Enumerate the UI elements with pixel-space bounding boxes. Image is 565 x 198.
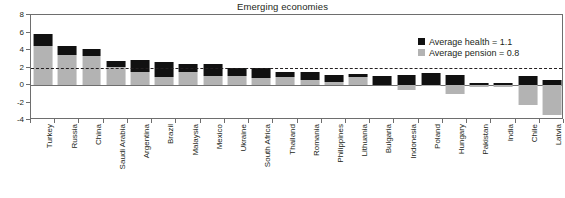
bar-slot[interactable] xyxy=(443,15,467,118)
y-axis-tick-label: 4 xyxy=(20,45,24,54)
bar-segment-health[interactable] xyxy=(155,62,174,77)
bar-slot[interactable] xyxy=(370,15,394,118)
bar-segment-health[interactable] xyxy=(446,75,465,86)
x-axis-tick-mark xyxy=(345,119,346,123)
legend-item-pension: Average pension = 0.8 xyxy=(418,47,519,58)
bar-slot[interactable] xyxy=(104,15,128,118)
x-axis-tick-mark xyxy=(103,119,104,123)
bar-segment-pension[interactable] xyxy=(421,85,440,86)
y-axis-tick-label: -2 xyxy=(17,97,24,106)
x-axis-tick-mark xyxy=(418,119,419,123)
bar-slot[interactable] xyxy=(467,15,491,118)
legend-swatch-pension-icon xyxy=(418,49,425,56)
x-axis-tick-mark xyxy=(563,119,564,123)
bar-slot[interactable] xyxy=(225,15,249,118)
x-axis-label: Indonesia xyxy=(409,124,418,159)
bar-slot[interactable] xyxy=(516,15,540,118)
bar-segment-health[interactable] xyxy=(542,80,561,85)
x-axis-label: Chile xyxy=(530,124,539,142)
bar-segment-pension[interactable] xyxy=(324,82,343,86)
x-axis-tick-mark xyxy=(539,119,540,123)
bar-segment-pension[interactable] xyxy=(227,76,246,85)
bar-slot[interactable] xyxy=(128,15,152,118)
bar-slot[interactable] xyxy=(31,15,55,118)
bar-segment-health[interactable] xyxy=(518,76,537,85)
bar-segment-pension[interactable] xyxy=(349,77,368,85)
legend: Average health = 1.1 Average pension = 0… xyxy=(415,35,522,60)
bar-segment-health[interactable] xyxy=(421,73,440,85)
bar-segment-health[interactable] xyxy=(397,75,416,85)
bar-segment-pension[interactable] xyxy=(276,77,295,85)
chart-container: Emerging economies -4-202468 Average hea… xyxy=(0,0,565,198)
bar-slot[interactable] xyxy=(346,15,370,118)
bar-segment-pension[interactable] xyxy=(131,72,150,85)
bar-segment-health[interactable] xyxy=(82,49,101,56)
bar-segment-pension[interactable] xyxy=(252,78,271,85)
bar-slot[interactable] xyxy=(298,15,322,118)
bar-slot[interactable] xyxy=(152,15,176,118)
bar-segment-pension[interactable] xyxy=(179,72,198,85)
bar-segment-health[interactable] xyxy=(324,75,343,82)
x-axis-tick-mark xyxy=(369,119,370,123)
bar-segment-health[interactable] xyxy=(227,68,246,77)
bar-slot[interactable] xyxy=(322,15,346,118)
x-axis-tick-mark xyxy=(200,119,201,123)
y-axis-tick-label: 8 xyxy=(20,10,24,19)
bar-segment-health[interactable] xyxy=(106,61,125,67)
bar-segment-health[interactable] xyxy=(373,76,392,85)
bar-segment-health[interactable] xyxy=(203,64,222,76)
bar-segment-health[interactable] xyxy=(34,34,53,45)
bar-segment-health[interactable] xyxy=(470,83,489,85)
x-axis-tick-mark xyxy=(127,119,128,123)
bar-segment-pension[interactable] xyxy=(203,76,222,85)
bar-slot[interactable] xyxy=(249,15,273,118)
x-axis-label: Bulgaria xyxy=(384,124,393,153)
bar-segment-health[interactable] xyxy=(349,74,368,78)
bar-segment-health[interactable] xyxy=(300,72,319,80)
bar-segment-health[interactable] xyxy=(58,46,77,56)
bar-slot[interactable] xyxy=(273,15,297,118)
bar-segment-health[interactable] xyxy=(131,60,150,72)
x-axis-tick-mark xyxy=(272,119,273,123)
bar-segment-health[interactable] xyxy=(494,83,513,85)
x-axis-label: Romania xyxy=(312,124,321,156)
x-axis-tick-mark xyxy=(442,119,443,123)
bar-slot[interactable] xyxy=(79,15,103,118)
bar-slot[interactable] xyxy=(55,15,79,118)
bar-slot[interactable] xyxy=(540,15,562,118)
bar-segment-pension[interactable] xyxy=(106,67,125,85)
bar-segment-pension[interactable] xyxy=(446,85,465,94)
x-axis-label: Lithuania xyxy=(360,124,369,156)
bar-segment-pension[interactable] xyxy=(155,77,174,85)
bar-segment-health[interactable] xyxy=(276,72,295,77)
bar-slot[interactable] xyxy=(419,15,443,118)
x-axis-tick-mark xyxy=(393,119,394,123)
bar-segment-health[interactable] xyxy=(252,68,271,79)
x-axis-tick-mark xyxy=(151,119,152,123)
bar-segment-pension[interactable] xyxy=(494,85,513,87)
x-axis-label: Argentina xyxy=(142,124,151,158)
bar-segment-pension[interactable] xyxy=(470,85,489,87)
plot-inner xyxy=(31,15,562,118)
bar-slot[interactable] xyxy=(201,15,225,118)
x-axis-tick-mark xyxy=(175,119,176,123)
bar-slot[interactable] xyxy=(491,15,515,118)
x-axis-label: Philippines xyxy=(336,124,345,163)
x-axis-tick-mark xyxy=(248,119,249,123)
x-axis-tick-mark xyxy=(466,119,467,123)
bar-slot[interactable] xyxy=(176,15,200,118)
bar-segment-pension[interactable] xyxy=(542,85,561,115)
x-axis-label: Ukraine xyxy=(239,124,248,152)
bar-slot[interactable] xyxy=(394,15,418,118)
bar-segment-pension[interactable] xyxy=(397,85,416,90)
x-axis-label: Latvia xyxy=(554,124,563,145)
bar-segment-pension[interactable] xyxy=(34,46,53,85)
bar-segment-pension[interactable] xyxy=(58,55,77,85)
bar-segment-pension[interactable] xyxy=(518,85,537,105)
bar-segment-pension[interactable] xyxy=(82,56,101,85)
x-axis-label: Turkey xyxy=(45,124,54,148)
y-axis-tick-label: 6 xyxy=(20,27,24,36)
legend-swatch-health-icon xyxy=(418,38,425,45)
x-axis-tick-mark xyxy=(54,119,55,123)
bar-segment-pension[interactable] xyxy=(300,80,319,85)
